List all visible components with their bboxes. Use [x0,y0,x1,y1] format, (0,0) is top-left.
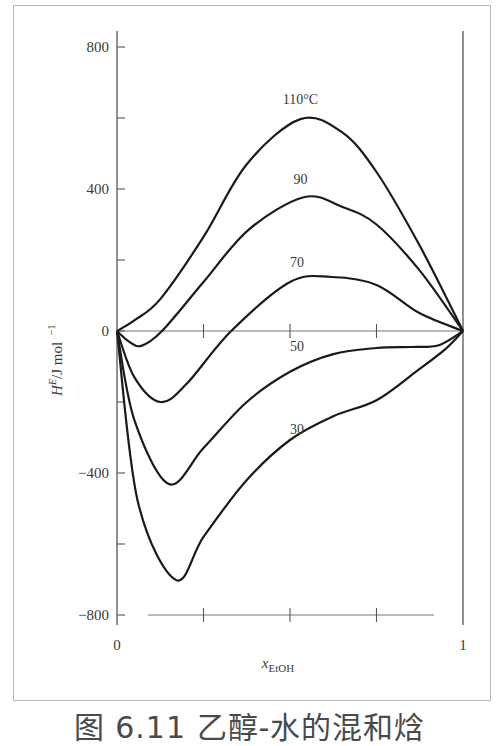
curve-50 [117,331,463,485]
y-tick-label: −400 [78,465,109,481]
curve-30 [117,331,463,581]
curve-90 [117,196,463,346]
curve-label: 70 [290,255,304,270]
figure-caption: 图 6.11 乙醇-水的混和焓 [0,703,499,746]
y-tick-label: 800 [87,39,110,55]
curve-label: 30 [290,422,304,437]
y-tick-label: 400 [87,181,110,197]
x-axis-title: xEtOH [261,655,294,674]
curve-110 [117,118,463,331]
y-axis-title: HE/J mol−1 [45,324,65,397]
curve-labels: 110°C90705030 [283,92,318,437]
curve-label: 90 [293,172,307,187]
y-tick-label: 0 [102,323,110,339]
x-tick-label: 1 [459,637,467,653]
curve-label: 50 [290,339,304,354]
x-tick-label: 0 [113,637,121,653]
y-tick-label: −800 [78,607,109,623]
curve-label: 110°C [283,92,318,107]
axes: 8004000−400−80001 [78,31,467,653]
